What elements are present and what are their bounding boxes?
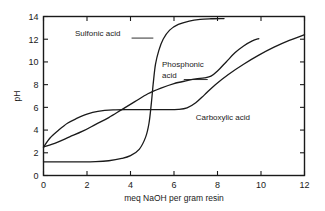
x-tick-label: 8 bbox=[215, 180, 220, 190]
x-axis-title: meq NaOH per gram resin bbox=[124, 193, 224, 203]
axis-tick-labels: 02468101202468101214 bbox=[28, 12, 309, 190]
y-tick-label: 12 bbox=[28, 35, 38, 45]
figure-page: 02468101202468101214 meq NaOH per gram r… bbox=[0, 0, 325, 211]
x-tick-label: 4 bbox=[128, 180, 133, 190]
x-tick-label: 6 bbox=[171, 180, 176, 190]
y-tick-label: 8 bbox=[33, 80, 38, 90]
x-tick-label: 0 bbox=[41, 180, 46, 190]
axis-ticks bbox=[44, 17, 305, 176]
phosphonic-acid-label-line1: Phosphonic bbox=[162, 60, 204, 69]
x-tick-label: 10 bbox=[256, 180, 266, 190]
y-tick-label: 10 bbox=[28, 57, 38, 67]
curve-sulfonic-acid bbox=[44, 19, 225, 162]
y-tick-label: 14 bbox=[28, 12, 38, 22]
curve-carboxylic-acid bbox=[44, 35, 305, 147]
data-curves bbox=[44, 19, 305, 162]
y-tick-label: 4 bbox=[33, 125, 38, 135]
y-tick-label: 0 bbox=[33, 171, 38, 181]
x-tick-label: 2 bbox=[84, 180, 89, 190]
x-tick-label: 12 bbox=[299, 180, 309, 190]
y-tick-label: 2 bbox=[33, 148, 38, 158]
carboxylic-acid-label: Carboxylic acid bbox=[196, 113, 250, 122]
curve-phosphonic-acid bbox=[44, 39, 259, 147]
titration-curve-chart: 02468101202468101214 meq NaOH per gram r… bbox=[0, 0, 325, 211]
y-tick-label: 6 bbox=[33, 103, 38, 113]
sulfonic-acid-label: Sulfonic acid bbox=[75, 29, 120, 38]
plot-frame bbox=[44, 17, 305, 176]
y-axis-title: pH bbox=[12, 91, 22, 102]
phosphonic-acid-label-line2: acid bbox=[162, 71, 177, 80]
